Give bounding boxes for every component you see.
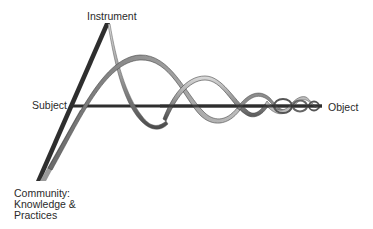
instrument-label: Instrument — [87, 11, 137, 22]
community-label-line-3: Practices — [14, 210, 104, 221]
main-hump-ribbon — [48, 55, 240, 170]
subject-object-axis-front — [160, 105, 322, 108]
subject-label: Subject — [32, 100, 67, 111]
object-label: Object — [328, 102, 358, 113]
instrument-ribbon-descent — [108, 24, 168, 129]
activity-theory-diagram: Instrument Subject Object Community: Kno… — [0, 0, 373, 229]
community-label: Community: Knowledge & Practices — [14, 188, 104, 221]
